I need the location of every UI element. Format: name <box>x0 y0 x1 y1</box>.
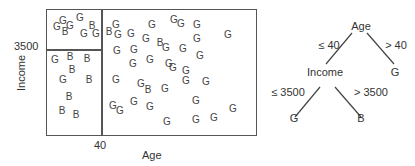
tree-node-income: Income <box>307 66 343 78</box>
edge-label-age-le-40: ≤ 40 <box>318 39 339 51</box>
tree-leaf-b: B <box>357 112 364 124</box>
edge-label-age-gt-40: > 40 <box>385 39 407 51</box>
tree-root-age: Age <box>351 20 371 32</box>
tree-leaf-g: G <box>290 112 299 124</box>
tree-leaf-g-right: G <box>391 66 400 78</box>
edge-label-income-gt-3500: > 3500 <box>354 86 388 98</box>
edge-label-income-le-3500: ≤ 3500 <box>271 86 305 98</box>
